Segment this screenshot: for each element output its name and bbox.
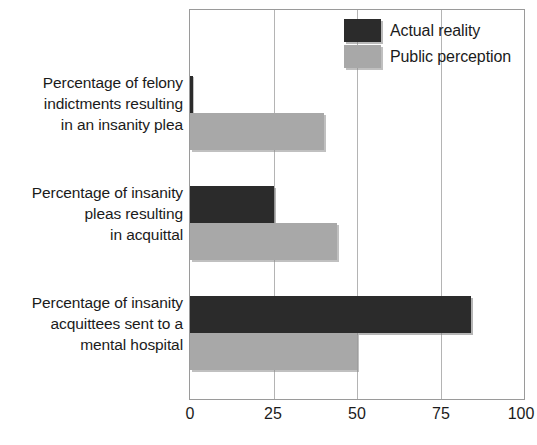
category-label-1-line-2: indictments resulting [5,93,183,114]
bar-public-perception-2 [190,223,337,260]
category-label-1-line-3: in an insanity plea [5,114,183,135]
category-label-3-line-1: Percentage of insanity [5,292,183,313]
bar-fill [190,113,324,150]
bar-fill [190,296,471,333]
light-swatch-icon [344,45,381,68]
category-label-2-line-2: pleas resulting [5,203,183,224]
x-tick-50: 50 [348,405,366,423]
bar-public-perception-3 [190,333,357,370]
legend-label-actual-reality: Actual reality [390,21,480,40]
category-label-3-line-3: mental hospital [5,334,183,355]
category-label-2-line-3: in acquittal [5,224,183,245]
x-tick-0: 0 [186,405,195,423]
legend-label-public-perception: Public perception [390,47,511,66]
bar-chart: Percentage of felony indictments resulti… [0,0,537,445]
category-label-1: Percentage of felony indictments resulti… [5,72,183,135]
chart-legend: Actual reality Public perception [344,17,511,69]
plot-area: Actual reality Public perception [189,9,525,400]
bar-fill [190,333,357,370]
bar-fill [190,76,193,113]
bar-fill [190,223,337,260]
x-tick-100: 100 [508,405,535,423]
category-label-1-line-1: Percentage of felony [5,72,183,93]
category-label-2-line-1: Percentage of insanity [5,182,183,203]
category-axis-labels: Percentage of felony indictments resulti… [5,0,183,445]
category-label-2: Percentage of insanity pleas resulting i… [5,182,183,245]
category-label-3: Percentage of insanity acquittees sent t… [5,292,183,355]
bar-actual-reality-2 [190,186,274,223]
legend-item-public-perception: Public perception [344,43,511,69]
category-label-3-line-2: acquittees sent to a [5,313,183,334]
legend-item-actual-reality: Actual reality [344,17,511,43]
bar-actual-reality-3 [190,296,471,333]
bar-fill [190,186,274,223]
bar-public-perception-1 [190,113,324,150]
x-tick-75: 75 [432,405,450,423]
bar-actual-reality-1 [190,76,193,113]
x-tick-25: 25 [264,405,282,423]
dark-swatch-icon [344,19,381,42]
